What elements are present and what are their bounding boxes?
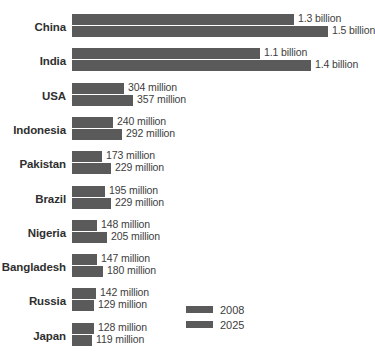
chart-row: China1.3 billion1.5 billion [0, 12, 331, 42]
bar-nigeria-2025[interactable] [72, 232, 107, 243]
chart-row: Bangladesh147 million180 million [0, 252, 331, 282]
value-label-brazil-2008: 195 million [105, 184, 158, 196]
bar-pakistan-2008[interactable] [72, 151, 102, 162]
category-label-china: China [0, 12, 66, 42]
bar-line-2025: 229 million [72, 198, 328, 209]
bar-group: 173 million229 million [72, 149, 331, 179]
bar-usa-2025[interactable] [72, 95, 133, 106]
bar-line-2025: 180 million [72, 266, 328, 277]
bar-line-2025: 205 million [72, 232, 328, 243]
bar-bangladesh-2008[interactable] [72, 254, 97, 265]
value-label-india-2025: 1.4 billion [311, 58, 358, 70]
value-label-bangladesh-2008: 147 million [97, 252, 150, 264]
value-label-russia-2008: 142 million [96, 286, 149, 298]
legend-item-2025[interactable]: 2025 [186, 317, 306, 332]
value-label-pakistan-2025: 229 million [111, 161, 164, 173]
value-label-china-2025: 1.5 billion [328, 24, 375, 36]
bar-group: 147 million180 million [72, 252, 331, 282]
value-label-pakistan-2008: 173 million [102, 149, 155, 161]
legend-label-2025: 2025 [220, 319, 244, 331]
value-label-usa-2008: 304 million [124, 81, 177, 93]
bar-china-2025[interactable] [72, 26, 328, 37]
bar-japan-2008[interactable] [72, 323, 94, 334]
value-label-india-2008: 1.1 billion [260, 46, 307, 58]
bar-group: 1.1 billion1.4 billion [72, 46, 331, 76]
legend-swatch-icon-2008 [186, 306, 213, 313]
category-label-brazil: Brazil [0, 184, 66, 214]
bar-nigeria-2008[interactable] [72, 220, 97, 231]
bar-group: 1.3 billion1.5 billion [72, 12, 331, 42]
value-label-indonesia-2025: 292 million [122, 127, 175, 139]
bar-bangladesh-2025[interactable] [72, 266, 103, 277]
bar-india-2025[interactable] [72, 60, 311, 71]
bar-group: 304 million357 million [72, 81, 331, 111]
bar-brazil-2025[interactable] [72, 198, 111, 209]
bar-usa-2008[interactable] [72, 83, 124, 94]
chart-row: USA304 million357 million [0, 81, 331, 111]
bar-line-2025: 229 million [72, 163, 328, 174]
category-label-bangladesh: Bangladesh [0, 252, 66, 282]
bar-line-2025: 1.4 billion [72, 60, 328, 71]
chart-row: Pakistan173 million229 million [0, 149, 331, 179]
bar-line-2025: 119 million [72, 335, 328, 346]
bar-line-2008: 304 million [72, 83, 328, 94]
category-label-india: India [0, 46, 66, 76]
bar-group: 195 million229 million [72, 184, 331, 214]
bar-line-2025: 292 million [72, 129, 328, 140]
value-label-nigeria-2008: 148 million [97, 218, 150, 230]
category-label-indonesia: Indonesia [0, 115, 66, 145]
bar-pakistan-2025[interactable] [72, 163, 111, 174]
legend-swatch-icon-2025 [186, 321, 213, 328]
value-label-china-2008: 1.3 billion [294, 12, 341, 24]
legend-label-2008: 2008 [220, 304, 244, 316]
chart-row: Indonesia240 million292 million [0, 115, 331, 145]
bar-india-2008[interactable] [72, 48, 260, 59]
chart-row: Nigeria148 million205 million [0, 218, 331, 248]
value-label-brazil-2025: 229 million [111, 196, 164, 208]
category-label-pakistan: Pakistan [0, 149, 66, 179]
category-label-nigeria: Nigeria [0, 218, 66, 248]
bar-line-2025: 357 million [72, 95, 328, 106]
chart-legend: 2008 2025 [186, 302, 306, 332]
bar-group: 240 million292 million [72, 115, 331, 145]
bar-line-2008: 1.3 billion [72, 14, 328, 25]
value-label-bangladesh-2025: 180 million [103, 264, 156, 276]
value-label-indonesia-2008: 240 million [113, 115, 166, 127]
legend-item-2008[interactable]: 2008 [186, 302, 306, 317]
bar-indonesia-2008[interactable] [72, 117, 113, 128]
bar-japan-2025[interactable] [72, 335, 92, 346]
value-label-usa-2025: 357 million [133, 93, 186, 105]
chart-row: Brazil195 million229 million [0, 184, 331, 214]
value-label-nigeria-2025: 205 million [107, 230, 160, 242]
bar-indonesia-2025[interactable] [72, 129, 122, 140]
bar-line-2025: 1.5 billion [72, 26, 328, 37]
value-label-japan-2025: 119 million [92, 333, 144, 345]
value-label-russia-2025: 129 million [94, 298, 147, 310]
value-label-japan-2008: 128 million [94, 321, 147, 333]
bar-china-2008[interactable] [72, 14, 294, 25]
bar-group: 148 million205 million [72, 218, 331, 248]
bar-line-2008: 240 million [72, 117, 328, 128]
bar-russia-2008[interactable] [72, 288, 96, 299]
category-label-japan: Japan [0, 321, 66, 351]
bar-line-2008: 1.1 billion [72, 48, 328, 59]
category-label-usa: USA [0, 81, 66, 111]
chart-row: India1.1 billion1.4 billion [0, 46, 331, 76]
bar-russia-2025[interactable] [72, 300, 94, 311]
bar-brazil-2008[interactable] [72, 186, 105, 197]
category-label-russia: Russia [0, 286, 66, 316]
